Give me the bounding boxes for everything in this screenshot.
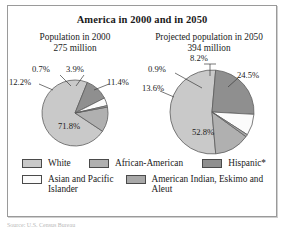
legend-label-american-indian: American Indian, Eskimo and Aleut (152, 174, 266, 195)
legend-label-asian-pacific-islander: Asian and Pacific Islander (48, 174, 126, 195)
panel-right-heading-line1: Projected population in 2050 (155, 32, 263, 42)
pie-2000-label-white: 71.8% (58, 122, 80, 131)
legend-label-white: White (48, 158, 71, 169)
pie-2050-label-hispanic: 24.5% (237, 71, 259, 80)
legend-label-african-american: African-American (115, 158, 183, 169)
source-note: Source: U.S. Census Bureau (7, 222, 75, 228)
panel-left-heading-line2: 275 million (8, 43, 142, 54)
pie-2000-label-asian-pacific: 3.9% (66, 65, 84, 74)
legend-label-hispanic: Hispanic* (228, 158, 266, 169)
legend-row-1: White African-American Hispanic* (22, 158, 266, 169)
pie-2050-label-asian-pacific: 8.2% (190, 54, 208, 63)
panel-right-heading: Projected population in 2050 394 million (142, 32, 276, 54)
pie-2050-label-african-american: 13.6% (142, 84, 164, 93)
panel-population-2050: Projected population in 2050 394 million (142, 32, 276, 172)
pie-2000-label-hispanic: 11.4% (107, 78, 129, 87)
pie-chart-2000: 0.7% 3.9% 12.2% 11.4% 71.8% (8, 54, 142, 172)
pie-2000-label-african-american: 12.2% (9, 78, 31, 87)
legend: White African-American Hispanic* Asian a… (22, 158, 266, 200)
legend-swatch-american-indian-icon (126, 175, 146, 184)
legend-swatch-white-icon (22, 159, 42, 168)
panel-population-2000: Population in 2000 275 million (8, 32, 142, 172)
panel-left-heading: Population in 2000 275 million (8, 32, 142, 54)
pie-chart-2050: 8.2% 0.9% 24.5% 13.6% 52.8% (142, 54, 276, 172)
figure-frame: America in 2000 and in 2050 Population i… (7, 5, 277, 217)
legend-item-american-indian[interactable]: American Indian, Eskimo and Aleut (126, 174, 266, 195)
panel-left-heading-line1: Population in 2000 (40, 32, 111, 42)
legend-item-hispanic[interactable]: Hispanic* (202, 158, 266, 169)
pie-2000-label-american-indian: 0.7% (32, 65, 50, 74)
legend-swatch-hispanic-icon (202, 159, 222, 168)
legend-item-african-american[interactable]: African-American (89, 158, 202, 169)
legend-item-white[interactable]: White (22, 158, 89, 169)
legend-item-asian-pacific-islander[interactable]: Asian and Pacific Islander (22, 174, 126, 195)
figure-title: America in 2000 and in 2050 (8, 14, 276, 25)
panel-right-heading-line2: 394 million (142, 43, 276, 54)
legend-swatch-asian-pacific-islander-icon (22, 175, 42, 184)
pie-2050-label-white: 52.8% (192, 128, 214, 137)
legend-swatch-african-american-icon (89, 159, 109, 168)
legend-row-2: Asian and Pacific Islander American Indi… (22, 174, 266, 195)
pie-2050-label-american-indian: 0.9% (148, 65, 166, 74)
